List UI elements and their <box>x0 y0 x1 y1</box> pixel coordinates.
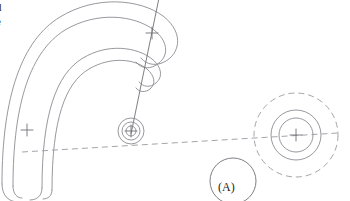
dashed-centerline <box>22 133 338 152</box>
edge-text-fragment-line2: e <box>0 15 1 28</box>
drawing-canvas: d e (A) <box>0 0 350 201</box>
band-left-ubend-inner <box>30 188 42 200</box>
band-left-ubend-inner2 <box>43 190 52 199</box>
right-assembly-center-cross <box>290 129 302 141</box>
left-bend-center-cross <box>21 124 33 136</box>
technical-drawing-svg <box>0 0 350 201</box>
curved-band-group <box>2 2 178 201</box>
band-arc-outer-1 <box>2 2 178 184</box>
band-arc-outer-2 <box>13 17 166 186</box>
edge-text-fragment-line1: d <box>0 1 2 14</box>
band-arc-inner-2 <box>52 60 154 190</box>
band-left-ubend-mid <box>13 186 22 198</box>
band-arc-inner-1 <box>42 48 161 188</box>
callout-label-a: (A) <box>218 180 235 195</box>
band-left-ubend-outer <box>2 184 18 201</box>
hub-center-cross <box>125 125 137 137</box>
